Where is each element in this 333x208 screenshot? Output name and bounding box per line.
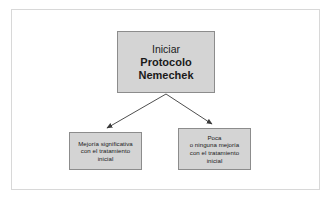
- diagram-canvas: Iniciar Protocolo Nemechek Mejoría signi…: [0, 0, 333, 208]
- node-right-line-4: inicial: [207, 157, 223, 165]
- node-left-line-2: con el tratamiento: [81, 147, 130, 155]
- node-left-line-1: Mejoría significativa: [78, 140, 133, 148]
- node-mejoria-significativa[interactable]: Mejoría significativa con el tratamiento…: [69, 132, 142, 170]
- node-right-line-1: Poca: [207, 134, 221, 142]
- node-iniciar-protocolo-nemechek[interactable]: Iniciar Protocolo Nemechek: [117, 31, 215, 93]
- node-poca-o-ninguna-mejoria[interactable]: Poca o ninguna mejoría con el tratamient…: [178, 128, 251, 170]
- flowchart: Iniciar Protocolo Nemechek Mejoría signi…: [0, 0, 333, 208]
- node-right-line-3: con el tratamiento: [190, 149, 239, 157]
- node-root-line-1: Iniciar: [152, 43, 180, 56]
- connector-root-to-left: [107, 94, 166, 128]
- node-left-line-3: inicial: [98, 155, 114, 163]
- node-right-line-2: o ninguna mejoría: [190, 141, 240, 149]
- connector-root-to-right: [166, 94, 212, 124]
- node-root-line-2: Protocolo: [140, 56, 191, 69]
- node-root-line-3: Nemechek: [138, 69, 193, 82]
